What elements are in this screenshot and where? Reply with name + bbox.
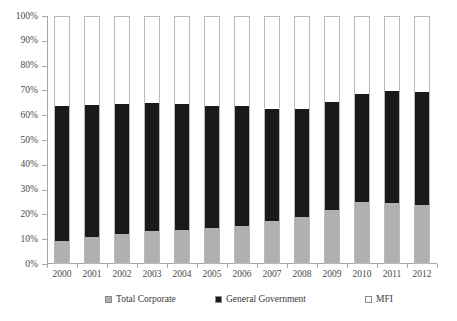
- y-axis-tick: 30%: [42, 190, 47, 191]
- y-axis-line: [47, 16, 48, 264]
- bar-stack-mfi[interactable]: [294, 16, 310, 264]
- bar-segment-general-government[interactable]: [265, 109, 279, 221]
- bar-stack-mfi[interactable]: [354, 16, 370, 264]
- bar-stack-mfi[interactable]: [414, 16, 430, 264]
- bar-segment-total-corporate[interactable]: [175, 230, 189, 263]
- y-axis-tick-label: 30%: [21, 185, 38, 195]
- bar-segment-general-government[interactable]: [235, 106, 249, 226]
- bar-segment-total-corporate[interactable]: [235, 226, 249, 263]
- bar-stack-mfi[interactable]: [234, 16, 250, 264]
- y-axis-tick: 100%: [42, 16, 47, 17]
- y-axis-tick-label: 100%: [16, 12, 38, 22]
- y-axis-tick-label: 70%: [21, 86, 38, 96]
- bar-stack-mfi[interactable]: [54, 16, 70, 264]
- legend-swatch-icon: [105, 296, 112, 303]
- bar-segment-total-corporate[interactable]: [145, 231, 159, 263]
- stacked-bar-chart: 0%10%20%30%40%50%60%70%80%90%100% 200020…: [0, 0, 457, 321]
- bar-stack-mfi[interactable]: [114, 16, 130, 264]
- bar-group[interactable]: [144, 16, 160, 264]
- bar-segment-total-corporate[interactable]: [385, 203, 399, 263]
- y-axis-tick-label: 80%: [21, 61, 38, 71]
- bar-stack-mfi[interactable]: [144, 16, 160, 264]
- x-axis-label-2006: 2006: [227, 270, 257, 280]
- y-axis-tick: 10%: [42, 239, 47, 240]
- x-axis-label-2004: 2004: [167, 270, 197, 280]
- y-axis-tick: 50%: [42, 140, 47, 141]
- x-axis-tick: [377, 264, 378, 268]
- bar-segment-general-government[interactable]: [175, 104, 189, 230]
- y-axis-tick-label: 50%: [21, 136, 38, 146]
- bar-segment-general-government[interactable]: [85, 105, 99, 237]
- y-axis-tick: 60%: [42, 115, 47, 116]
- bar-group[interactable]: [114, 16, 130, 264]
- bar-group[interactable]: [324, 16, 340, 264]
- x-axis-label-2012: 2012: [407, 270, 437, 280]
- x-axis-tick: [407, 264, 408, 268]
- x-axis-label-2001: 2001: [77, 270, 107, 280]
- bar-segment-total-corporate[interactable]: [85, 237, 99, 263]
- bar-segment-total-corporate[interactable]: [325, 210, 339, 263]
- legend-item[interactable]: MFI: [365, 295, 393, 305]
- x-axis-label-2003: 2003: [137, 270, 167, 280]
- x-axis-tick: [107, 264, 108, 268]
- bar-group[interactable]: [174, 16, 190, 264]
- legend-swatch-icon: [365, 296, 372, 303]
- bar-stack-mfi[interactable]: [264, 16, 280, 264]
- bar-segment-total-corporate[interactable]: [415, 205, 429, 263]
- bar-stack-mfi[interactable]: [84, 16, 100, 264]
- y-axis-tick-label: 40%: [21, 161, 38, 171]
- bar-segment-general-government[interactable]: [55, 106, 69, 241]
- x-axis-tick: [317, 264, 318, 268]
- bar-group[interactable]: [414, 16, 430, 264]
- x-axis-label-2000: 2000: [47, 270, 77, 280]
- bar-stack-mfi[interactable]: [384, 16, 400, 264]
- bar-group[interactable]: [384, 16, 400, 264]
- x-axis-label-2002: 2002: [107, 270, 137, 280]
- bar-group[interactable]: [54, 16, 70, 264]
- bar-segment-general-government[interactable]: [145, 103, 159, 231]
- x-axis-label-2010: 2010: [347, 270, 377, 280]
- bar-segment-general-government[interactable]: [115, 104, 129, 234]
- x-axis-tick: [137, 264, 138, 268]
- x-axis-tick: [47, 264, 48, 268]
- x-axis-label-2005: 2005: [197, 270, 227, 280]
- legend-label: General Government: [226, 295, 306, 305]
- bar-group[interactable]: [354, 16, 370, 264]
- bar-segment-general-government[interactable]: [355, 94, 369, 202]
- bar-group[interactable]: [264, 16, 280, 264]
- bar-segment-general-government[interactable]: [325, 102, 339, 210]
- bar-stack-mfi[interactable]: [324, 16, 340, 264]
- x-axis-label-2008: 2008: [287, 270, 317, 280]
- y-axis-tick: 70%: [42, 90, 47, 91]
- x-axis-label-2009: 2009: [317, 270, 347, 280]
- bar-segment-general-government[interactable]: [415, 92, 429, 205]
- bar-segment-total-corporate[interactable]: [355, 202, 369, 263]
- legend-swatch-icon: [215, 296, 222, 303]
- bar-group[interactable]: [84, 16, 100, 264]
- x-axis-tick: [77, 264, 78, 268]
- y-axis-tick: 80%: [42, 66, 47, 67]
- legend-item[interactable]: General Government: [215, 295, 306, 305]
- bar-group[interactable]: [294, 16, 310, 264]
- y-axis-tick: 90%: [42, 41, 47, 42]
- bar-group[interactable]: [204, 16, 220, 264]
- legend-item[interactable]: Total Corporate: [105, 295, 176, 305]
- y-axis-tick-label: 10%: [21, 235, 38, 245]
- bar-group[interactable]: [234, 16, 250, 264]
- x-axis-tick: [167, 264, 168, 268]
- y-axis-tick-label: 20%: [21, 210, 38, 220]
- bar-stack-mfi[interactable]: [204, 16, 220, 264]
- bar-segment-general-government[interactable]: [205, 106, 219, 229]
- y-axis-tick-label: 90%: [21, 37, 38, 47]
- y-axis-tick: 20%: [42, 214, 47, 215]
- bar-segment-total-corporate[interactable]: [205, 228, 219, 263]
- bar-segment-total-corporate[interactable]: [55, 241, 69, 263]
- bar-stack-mfi[interactable]: [174, 16, 190, 264]
- bar-segment-total-corporate[interactable]: [295, 217, 309, 263]
- x-axis-tick: [287, 264, 288, 268]
- bar-segment-total-corporate[interactable]: [265, 221, 279, 263]
- x-axis-tick: [227, 264, 228, 268]
- bar-segment-total-corporate[interactable]: [115, 234, 129, 263]
- bar-segment-general-government[interactable]: [385, 91, 399, 204]
- bar-segment-general-government[interactable]: [295, 109, 309, 218]
